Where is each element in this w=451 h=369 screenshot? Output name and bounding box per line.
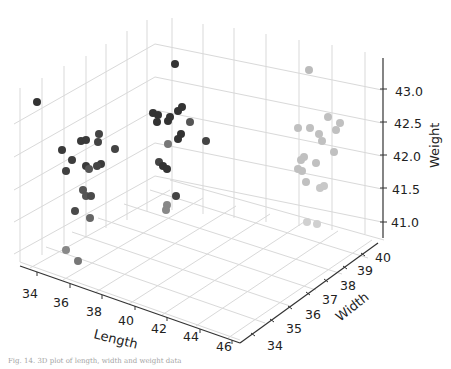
data-point	[305, 66, 313, 74]
y-tick-label: 37	[322, 292, 338, 307]
data-point	[303, 218, 311, 226]
data-point	[62, 246, 70, 254]
data-point	[302, 178, 310, 186]
data-point	[95, 130, 103, 138]
data-point	[71, 207, 79, 215]
y-tick-label: 36	[305, 307, 321, 322]
data-point	[330, 148, 338, 156]
z-tick-label: 41.0	[391, 215, 419, 230]
data-point	[166, 113, 174, 121]
y-tick-label: 35	[286, 321, 302, 336]
data-point	[320, 182, 328, 190]
data-point	[171, 60, 179, 68]
data-point	[174, 135, 182, 143]
data-point	[318, 137, 326, 145]
data-point	[294, 124, 302, 132]
data-point	[336, 119, 344, 127]
z-tick-labels: 41.0 41.5 42.0 42.5 43.0	[391, 84, 423, 230]
scatter-3d-plot: 34 36 38 40 42 44 46 Length 34 35 36 37 …	[0, 0, 451, 355]
x-tick-label: 34	[22, 286, 38, 301]
data-point	[58, 146, 66, 154]
z-tick-label: 43.0	[395, 84, 423, 99]
z-axis-title: Weight	[427, 123, 442, 168]
data-point	[202, 137, 210, 145]
y-tick-label: 34	[267, 338, 283, 353]
data-point	[111, 145, 119, 153]
data-point	[312, 159, 320, 167]
figure-caption: Fig. 14. 3D plot of length, width and we…	[8, 357, 182, 365]
x-tick-label: 40	[118, 313, 134, 328]
x-axis-title: Length	[92, 326, 139, 351]
data-point	[62, 167, 70, 175]
data-point	[178, 103, 186, 111]
y-tick-label: 39	[357, 263, 373, 278]
x-tick-label: 44	[183, 329, 199, 344]
data-point	[162, 206, 170, 214]
y-tick-label: 38	[340, 278, 356, 293]
y-tick-labels: 34 35 36 37 38 39 40	[267, 250, 391, 353]
y-axis-title: Width	[333, 289, 372, 324]
data-point	[82, 136, 90, 144]
data-point	[74, 257, 82, 265]
x-tick-label: 46	[216, 339, 232, 354]
data-point	[298, 167, 306, 175]
x-tick-label: 36	[53, 295, 69, 310]
data-point	[86, 214, 94, 222]
z-tick-label: 41.5	[392, 182, 420, 197]
data-point	[94, 138, 102, 146]
data-point	[332, 126, 340, 134]
data-point	[186, 118, 194, 126]
data-point	[172, 192, 180, 200]
data-point	[164, 140, 172, 148]
data-point	[33, 98, 41, 106]
x-tick-label: 42	[151, 321, 167, 336]
data-point	[68, 156, 76, 164]
data-point	[300, 153, 308, 161]
data-point	[306, 124, 314, 132]
data-point	[324, 113, 332, 121]
data-point	[163, 165, 171, 173]
data-point	[154, 111, 162, 119]
data-point	[313, 220, 321, 228]
data-point	[153, 118, 161, 126]
data-point	[93, 162, 101, 170]
data-point	[87, 192, 95, 200]
x-tick-label: 38	[86, 304, 102, 319]
data-point	[315, 130, 323, 138]
z-tick-label: 42.0	[393, 149, 421, 164]
y-tick-label: 40	[375, 250, 391, 265]
z-tick-label: 42.5	[394, 116, 422, 131]
data-point	[85, 165, 93, 173]
